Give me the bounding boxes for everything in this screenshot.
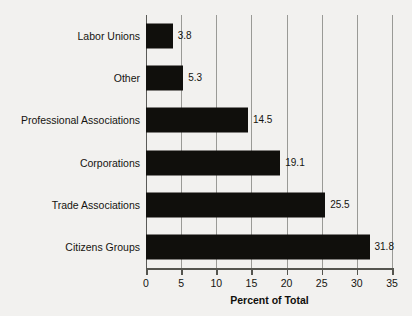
x-tick-label: 35 xyxy=(386,278,398,289)
gridline-10 xyxy=(216,15,217,268)
x-tick xyxy=(287,268,289,275)
x-axis-title: Percent of Total xyxy=(146,295,393,306)
category-label: Corporations xyxy=(0,157,146,168)
bar xyxy=(146,150,280,175)
x-tick-label: 30 xyxy=(351,278,363,289)
x-tick xyxy=(146,268,148,275)
x-tick xyxy=(251,268,253,275)
gridline-5 xyxy=(181,15,182,268)
bar xyxy=(146,192,325,217)
bar xyxy=(146,234,370,259)
bar-value-label: 3.8 xyxy=(178,31,192,41)
bar-value-label: 14.5 xyxy=(253,115,272,125)
gridline-15 xyxy=(251,15,252,268)
x-tick-label: 10 xyxy=(210,278,222,289)
category-axis-labels: Labor UnionsOtherProfessional Associatio… xyxy=(0,0,146,316)
bar xyxy=(146,24,173,49)
bar xyxy=(146,66,183,91)
category-label: Labor Unions xyxy=(0,31,146,42)
bar xyxy=(146,108,248,133)
y-axis-line xyxy=(146,15,147,268)
gridline-25 xyxy=(322,15,323,268)
bar-value-label: 5.3 xyxy=(188,73,202,83)
x-tick xyxy=(216,268,218,275)
gridline-35 xyxy=(392,15,393,268)
gridline-20 xyxy=(287,15,288,268)
gridline-30 xyxy=(357,15,358,268)
bar-value-label: 31.8 xyxy=(375,242,394,252)
category-label: Professional Associations xyxy=(0,115,146,126)
x-tick-label: 20 xyxy=(281,278,293,289)
x-tick-label: 15 xyxy=(246,278,258,289)
x-tick-label: 25 xyxy=(316,278,328,289)
x-tick xyxy=(322,268,324,275)
x-tick-label: 5 xyxy=(178,278,184,289)
x-tick xyxy=(392,268,394,275)
bar-value-label: 19.1 xyxy=(285,158,304,168)
category-label: Other xyxy=(0,73,146,84)
x-tick xyxy=(357,268,359,275)
category-label: Citizens Groups xyxy=(0,242,146,253)
bar-chart: Labor UnionsOtherProfessional Associatio… xyxy=(0,0,412,316)
x-tick-label: 0 xyxy=(143,278,149,289)
x-tick xyxy=(181,268,183,275)
category-label: Trade Associations xyxy=(0,200,146,211)
bar-value-label: 25.5 xyxy=(330,200,349,210)
plot-area: 3.85.314.519.125.531.8 xyxy=(146,15,392,268)
